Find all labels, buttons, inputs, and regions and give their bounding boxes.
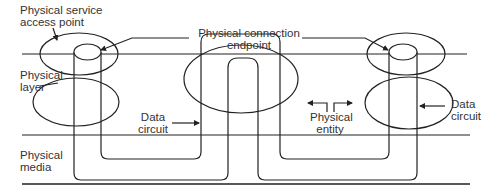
left-connection-endpoint-ellipse: [74, 44, 101, 60]
connection-endpoint-label: Physical connection endpoint: [197, 27, 301, 51]
physical-layer-label: Physical layer: [20, 69, 63, 93]
right-physical-entity-ellipse: [365, 77, 453, 129]
service-access-point-label: Physical service access point: [20, 4, 102, 28]
physical-entity-label: Physical entity: [310, 111, 350, 135]
inner-data-circuit-path: [101, 34, 389, 159]
data-circuit-right-label: Data circuit: [451, 98, 481, 122]
physical-media-label: Physical media: [20, 149, 63, 173]
physical-layer-diagram: Physical service access point Physical c…: [0, 0, 494, 188]
data-circuit-left-label: Data circuit: [136, 111, 170, 135]
connection-endpoint-arrow-right: [302, 38, 388, 50]
right-connection-endpoint-ellipse: [389, 44, 417, 60]
outer-data-circuit-path: [74, 52, 417, 180]
